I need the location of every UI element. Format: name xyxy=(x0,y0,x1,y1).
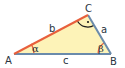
triangle-fill xyxy=(14,15,111,54)
vertex-a-label: A xyxy=(5,55,12,66)
right-angle-dot xyxy=(87,21,89,23)
angle-beta-label: β xyxy=(98,43,104,54)
side-a-label: a xyxy=(101,24,107,35)
vertex-c-label: C xyxy=(85,3,92,14)
vertex-b-label: B xyxy=(110,56,117,67)
side-c-label: c xyxy=(63,55,69,66)
angle-alpha-label: α xyxy=(32,43,39,54)
side-b-label: b xyxy=(49,23,55,34)
triangle-diagram: A B C b a c α β xyxy=(0,0,125,68)
